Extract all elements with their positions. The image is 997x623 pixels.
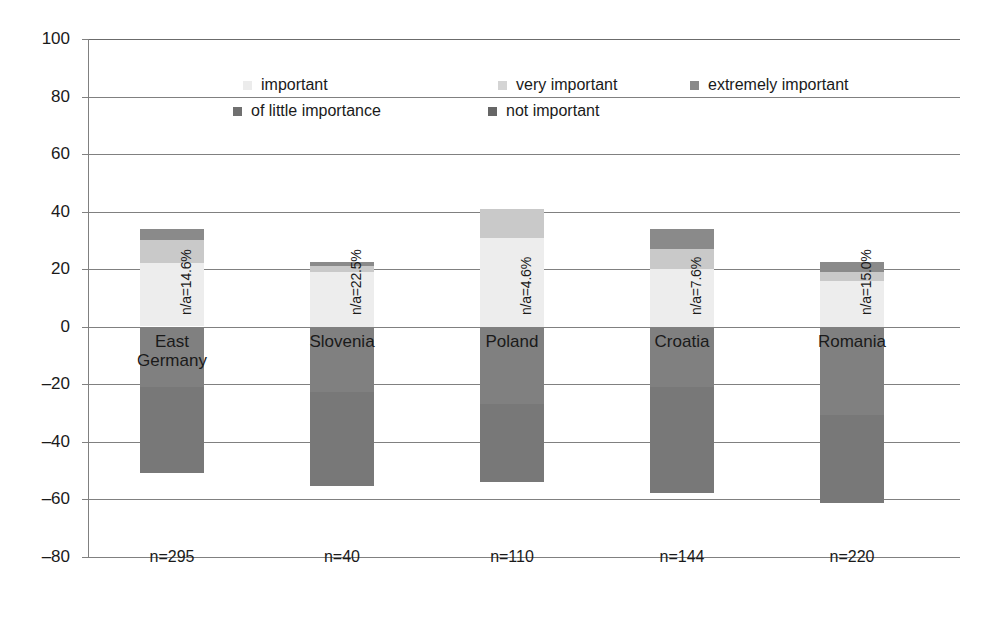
bar-segment-important bbox=[140, 263, 204, 326]
legend-item-extremely-important[interactable]: extremely important bbox=[690, 74, 849, 96]
country-label: Slovenia bbox=[288, 332, 396, 351]
legend-label: important bbox=[261, 77, 328, 93]
legend-item-important[interactable]: important bbox=[243, 74, 328, 96]
bar-segment-not-important bbox=[480, 404, 544, 482]
legend-label: not important bbox=[506, 103, 599, 119]
legend-label: of little importance bbox=[251, 103, 381, 119]
legend-swatch-icon bbox=[690, 81, 699, 90]
bar-segment-very-important bbox=[140, 240, 204, 263]
bar-segment-very-important bbox=[650, 249, 714, 269]
legend-label: very important bbox=[516, 77, 617, 93]
bar-segment-not-important bbox=[650, 387, 714, 493]
y-tick-mark bbox=[82, 499, 89, 500]
chart-canvas: 100806040200–20–40–60–80 n/a=14.6%East G… bbox=[0, 0, 997, 623]
y-tick-mark bbox=[82, 442, 89, 443]
y-tick-mark bbox=[82, 39, 89, 40]
na-annotation: n/a=7.6% bbox=[689, 257, 703, 315]
y-tick-mark bbox=[82, 212, 89, 213]
y-tick-mark bbox=[82, 97, 89, 98]
legend-item-very-important[interactable]: very important bbox=[498, 74, 617, 96]
y-tick-mark bbox=[82, 327, 89, 328]
sample-size-label: n=295 bbox=[117, 549, 227, 565]
sample-size-label: n=40 bbox=[287, 549, 397, 565]
y-axis-line bbox=[88, 39, 89, 557]
legend-swatch-icon bbox=[498, 81, 507, 90]
sample-size-label: n=144 bbox=[627, 549, 737, 565]
y-axis-label: 100 bbox=[18, 30, 70, 47]
legend-item-not-important[interactable]: not important bbox=[488, 100, 599, 122]
na-annotation: n/a=4.6% bbox=[519, 257, 533, 315]
gridline-80 bbox=[88, 97, 960, 98]
legend-swatch-icon bbox=[488, 107, 497, 116]
y-axis-label: 20 bbox=[18, 260, 70, 277]
y-axis-label: 60 bbox=[18, 145, 70, 162]
y-axis-label: –60 bbox=[18, 490, 70, 507]
y-tick-mark bbox=[82, 557, 89, 558]
country-label: Poland bbox=[458, 332, 566, 351]
bar-segment-extremely-important bbox=[650, 229, 714, 249]
bar-segment-very-important bbox=[480, 209, 544, 238]
legend-swatch-icon bbox=[243, 81, 252, 90]
y-axis-label: 0 bbox=[18, 318, 70, 335]
y-tick-mark bbox=[82, 384, 89, 385]
bar-segment-important bbox=[480, 238, 544, 327]
sample-size-label: n=220 bbox=[797, 549, 907, 565]
bar-segment-important bbox=[310, 272, 374, 327]
sample-size-label: n=110 bbox=[457, 549, 567, 565]
y-axis-label: –20 bbox=[18, 375, 70, 392]
y-axis-label: 40 bbox=[18, 203, 70, 220]
na-annotation: n/a=14.6% bbox=[179, 249, 193, 315]
y-axis-label: 80 bbox=[18, 88, 70, 105]
bar-segment-not-important bbox=[820, 415, 884, 503]
y-tick-mark bbox=[82, 154, 89, 155]
bar-segment-important bbox=[650, 269, 714, 327]
na-annotation: n/a=15.0% bbox=[859, 249, 873, 315]
bar-segment-not-important bbox=[310, 392, 374, 486]
bar-segment-very-important bbox=[820, 272, 884, 281]
bar-segment-important bbox=[820, 281, 884, 327]
gridline-60 bbox=[88, 154, 960, 155]
bar-segment-not-important bbox=[140, 387, 204, 473]
legend-swatch-icon bbox=[233, 107, 242, 116]
y-axis-label: –80 bbox=[18, 548, 70, 565]
y-axis-label: –40 bbox=[18, 433, 70, 450]
country-label: Romania bbox=[798, 332, 906, 351]
country-label: Croatia bbox=[628, 332, 736, 351]
legend-item-of-little-importance[interactable]: of little importance bbox=[233, 100, 381, 122]
country-label: East Germany bbox=[118, 332, 226, 370]
na-annotation: n/a=22.5% bbox=[349, 249, 363, 315]
legend-label: extremely important bbox=[708, 77, 849, 93]
y-tick-mark bbox=[82, 269, 89, 270]
gridline-100 bbox=[88, 39, 960, 40]
bar-segment-extremely-important bbox=[820, 262, 884, 272]
